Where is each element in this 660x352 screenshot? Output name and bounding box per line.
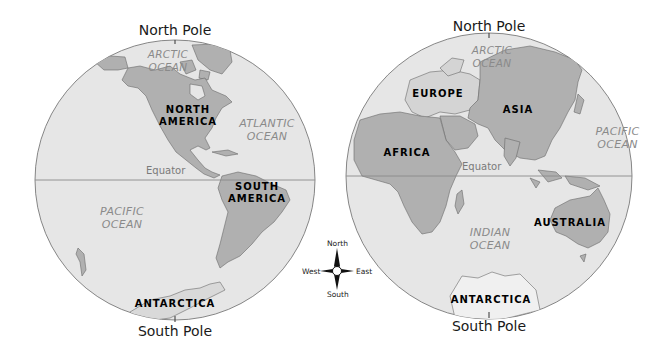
atlantic-ocean-label: ATLANTIC OCEAN: [222, 117, 312, 143]
antarctica-label-west: ANTARCTICA: [130, 298, 220, 310]
pacific-ocean-label-east: PACIFIC OCEAN: [580, 125, 655, 151]
arctic-ocean-label-east: ARCTIC OCEAN: [452, 44, 532, 70]
north-pole-label-east: North Pole: [419, 18, 559, 34]
south-america-label: SOUTH AMERICA: [222, 181, 292, 205]
north-america-label: NORTH AMERICA: [148, 104, 228, 128]
compass-rose-icon: [320, 248, 354, 290]
north-pole-label-west: North Pole: [105, 22, 245, 38]
compass-west-label: West: [302, 267, 320, 276]
antarctica-label-east: ANTARCTICA: [446, 294, 536, 306]
south-pole-label-west: South Pole: [105, 323, 245, 339]
compass-north-label: North: [327, 239, 348, 248]
australia-label: AUSTRALIA: [528, 217, 612, 229]
asia-label: ASIA: [488, 104, 548, 116]
africa-label: AFRICA: [372, 147, 442, 159]
compass-east-label: East: [356, 267, 372, 276]
europe-label: EUROPE: [408, 88, 468, 100]
hemispheres-map: [0, 0, 660, 352]
equator-label-west: Equator: [146, 165, 185, 176]
indian-ocean-label: INDIAN OCEAN: [455, 226, 525, 252]
south-pole-label-east: South Pole: [419, 318, 559, 334]
pacific-ocean-label-west: PACIFIC OCEAN: [82, 205, 162, 231]
compass-south-label: South: [327, 290, 349, 299]
arctic-ocean-label-west: ARCTIC OCEAN: [128, 48, 208, 74]
equator-label-east: Equator: [462, 161, 501, 172]
eastern-hemisphere: [346, 33, 632, 320]
